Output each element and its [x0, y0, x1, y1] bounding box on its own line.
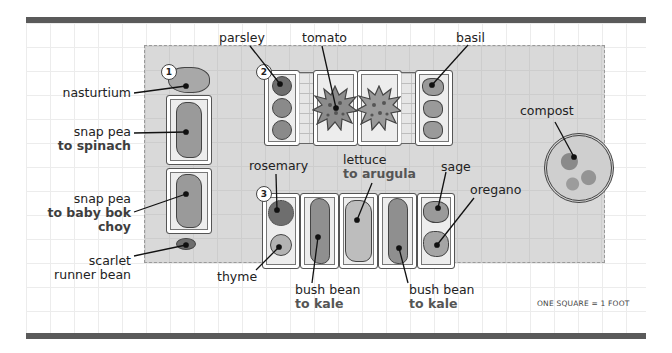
label-parsley: parsley: [219, 31, 265, 45]
label-main-cont: runner bean: [54, 268, 131, 282]
label-main: thyme: [217, 269, 257, 284]
parsley-plant: [272, 98, 292, 118]
label-sage: sage: [441, 160, 471, 174]
label-succession: to kale: [295, 297, 360, 311]
parsley-plant: [272, 76, 292, 96]
label-nasturtium-main: nasturtium: [62, 85, 131, 100]
label-rosemary: rosemary: [249, 159, 308, 173]
path-pavers: [299, 72, 313, 144]
bed-3-badge: 3: [256, 186, 272, 202]
oregano-plant: [423, 231, 449, 257]
label-main: lettuce: [343, 152, 386, 167]
label-basil: basil: [456, 31, 485, 45]
label-main: sage: [441, 159, 471, 174]
label-tomato: tomato: [302, 31, 347, 45]
label-lettuce: lettuce to arugula: [343, 153, 416, 181]
label-bush-bean-1: bush bean to kale: [295, 283, 360, 311]
bed-1-badge: 1: [161, 64, 177, 80]
sage-plant: [423, 201, 449, 223]
label-main: parsley: [219, 30, 265, 45]
label-snap-pea-spinach: snap pea to spinach: [58, 125, 131, 153]
basil-plant: [423, 100, 443, 118]
path-pavers: [401, 72, 415, 144]
basil-plant: [422, 78, 444, 96]
label-main: bush bean: [409, 282, 474, 297]
snap-pea-spinach-plant: [176, 102, 202, 158]
label-oregano: oregano: [470, 183, 521, 197]
label-succession: to arugula: [343, 167, 416, 181]
label-main: snap pea: [74, 191, 131, 206]
label-thyme: thyme: [217, 270, 257, 284]
tomato-plant: [356, 85, 402, 131]
label-main: bush bean: [295, 282, 360, 297]
label-succession-cont: choy: [47, 220, 131, 234]
rosemary-plant: [268, 200, 294, 226]
label-succession: to spinach: [58, 139, 131, 153]
lettuce-plant: [345, 200, 372, 262]
label-main: rosemary: [249, 158, 308, 173]
parsley-plant: [272, 120, 292, 140]
label-succession: to kale: [409, 297, 474, 311]
label-main: scarlet: [89, 253, 131, 268]
bed-2-badge: 2: [256, 64, 272, 80]
bottom-border-rule: [26, 333, 646, 339]
label-nasturtium: nasturtium: [62, 86, 131, 100]
label-compost: compost: [520, 104, 574, 118]
label-main: snap pea: [74, 124, 131, 139]
scale-note: ONE SQUARE = 1 FOOT: [537, 299, 630, 308]
label-main: tomato: [302, 30, 347, 45]
basil-plant: [423, 121, 443, 139]
snap-pea-bokchoy-plant: [176, 174, 202, 228]
label-succession: to baby bok: [47, 206, 131, 220]
bush-bean-plant: [388, 198, 408, 264]
thyme-plant: [270, 234, 292, 256]
label-scarlet-runner-bean: scarlet runner bean: [54, 254, 131, 282]
tomato-plant: [312, 85, 358, 131]
label-snap-pea-bokchoy: snap pea to baby bok choy: [47, 192, 131, 234]
label-main: oregano: [470, 182, 521, 197]
label-main: compost: [520, 103, 574, 118]
bush-bean-plant: [310, 198, 330, 264]
label-main: basil: [456, 30, 485, 45]
label-bush-bean-2: bush bean to kale: [409, 283, 474, 311]
compost-bin: [544, 133, 614, 203]
scarlet-runner-bean-plant: [176, 238, 196, 250]
